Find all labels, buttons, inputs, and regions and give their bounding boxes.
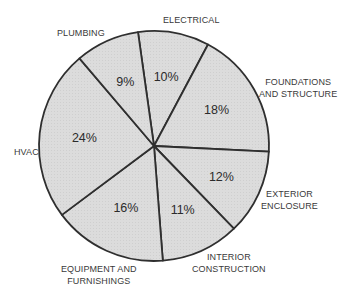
pie-value-label: 24% — [72, 131, 97, 145]
label-hvac: HVAC — [14, 146, 39, 158]
pie-value-label: 12% — [209, 170, 234, 184]
pie-value-label: 9% — [116, 75, 134, 89]
label-interior: INTERIOR CONSTRUCTION — [192, 251, 266, 275]
pie-value-label: 18% — [204, 103, 229, 117]
pie-chart: 10%18%12%11%16%24%9% — [0, 0, 339, 295]
label-foundations: FOUNDATIONS AND STRUCTURE — [259, 76, 337, 100]
label-plumbing: PLUMBING — [57, 27, 105, 39]
label-equipment: EQUIPMENT AND FURNISHINGS — [61, 263, 137, 287]
pie-value-label: 16% — [113, 201, 138, 215]
pie-value-label: 10% — [154, 70, 179, 84]
label-exterior: EXTERIOR ENCLOSURE — [261, 188, 318, 212]
pie-slices — [39, 31, 269, 261]
label-electrical: ELECTRICAL — [163, 14, 220, 26]
pie-value-label: 11% — [171, 203, 195, 217]
